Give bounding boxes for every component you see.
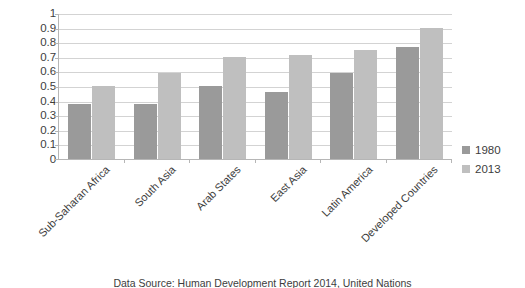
bar-1980-latin-america[interactable] bbox=[330, 73, 353, 159]
legend-label: 1980 bbox=[475, 144, 501, 156]
y-axis-tick-label: 0.4 bbox=[40, 96, 56, 108]
y-axis-tick-label: 0.8 bbox=[40, 37, 56, 49]
y-axis-tick-label: 0.2 bbox=[40, 125, 56, 137]
bar-group bbox=[59, 14, 125, 159]
legend-swatch-icon bbox=[462, 165, 470, 173]
y-axis-tick-label: 0.9 bbox=[40, 23, 56, 35]
x-axis-tick-cell bbox=[387, 159, 453, 163]
bar-1980-east-asia[interactable] bbox=[265, 92, 288, 159]
bar-2013-latin-america[interactable] bbox=[354, 50, 377, 160]
bar-chart-figure: 00.10.20.30.40.50.60.70.80.91 Sub-Sahara… bbox=[0, 0, 525, 288]
bar-2013-east-asia[interactable] bbox=[289, 55, 312, 159]
bar-group bbox=[190, 14, 256, 159]
x-axis-tickmarks bbox=[59, 159, 452, 163]
bars-layer bbox=[59, 14, 452, 159]
bar-group bbox=[321, 14, 387, 159]
chart-legend: 19802013 bbox=[462, 140, 524, 178]
y-axis-tick-label: 0.1 bbox=[40, 140, 56, 152]
bar-1980-south-asia[interactable] bbox=[134, 104, 157, 159]
x-axis-category-label: East Asia bbox=[195, 164, 309, 278]
x-axis-tick-cell bbox=[59, 159, 125, 163]
legend-item-2013[interactable]: 2013 bbox=[462, 159, 524, 178]
bar-group bbox=[125, 14, 191, 159]
bar-group bbox=[256, 14, 322, 159]
bar-1980-sub-saharan-africa[interactable] bbox=[68, 104, 91, 159]
y-axis-tick-label: 0.3 bbox=[40, 110, 56, 122]
x-axis-category-label: Latin America bbox=[261, 164, 375, 278]
bar-2013-south-asia[interactable] bbox=[158, 73, 181, 159]
chart-caption: Data Source: Human Development Report 20… bbox=[0, 277, 525, 288]
y-axis-tick-label: 0.5 bbox=[40, 81, 56, 93]
x-axis-category-label: Arab States bbox=[129, 164, 243, 278]
legend-label: 2013 bbox=[475, 163, 501, 175]
x-axis-tick-cell bbox=[256, 159, 322, 163]
legend-item-1980[interactable]: 1980 bbox=[462, 140, 524, 159]
x-axis-tick-cell bbox=[190, 159, 256, 163]
x-axis-category-label: Developed Countries bbox=[326, 164, 440, 278]
bar-1980-arab-states[interactable] bbox=[199, 86, 222, 159]
plot-area bbox=[58, 14, 452, 160]
plot-wrapper: 00.10.20.30.40.50.60.70.80.91 Sub-Sahara… bbox=[0, 0, 525, 175]
bar-group bbox=[387, 14, 453, 159]
bar-2013-arab-states[interactable] bbox=[223, 57, 246, 159]
x-axis-category-label: Sub-Saharan Africa bbox=[0, 164, 112, 278]
x-axis-category-labels: Sub-Saharan AfricaSouth AsiaArab StatesE… bbox=[58, 164, 452, 254]
bar-2013-sub-saharan-africa[interactable] bbox=[92, 86, 115, 159]
y-axis-tick-label: 0.7 bbox=[40, 52, 56, 64]
legend-swatch-icon bbox=[462, 146, 470, 154]
x-axis-category-label: South Asia bbox=[64, 164, 178, 278]
x-axis-tick-cell bbox=[321, 159, 387, 163]
bar-2013-developed-countries[interactable] bbox=[420, 28, 443, 159]
y-axis-tick-label: 0.6 bbox=[40, 67, 56, 79]
y-axis-tick-labels: 00.10.20.30.40.50.60.70.80.91 bbox=[14, 8, 56, 160]
x-axis-tick-cell bbox=[125, 159, 191, 163]
bar-1980-developed-countries[interactable] bbox=[396, 47, 419, 159]
